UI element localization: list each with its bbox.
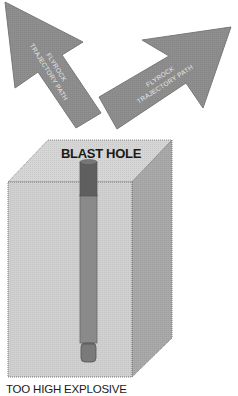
caption-text: TOO HIGH EXPLOSIVE xyxy=(6,383,127,395)
blast-hole xyxy=(80,160,97,363)
primer xyxy=(81,343,96,362)
flyrock-arrow-right: FLYROCK TRAJECTORY PATH xyxy=(99,27,231,129)
blast-diagram: FLYROCK TRAJECTORY PATH FLYROCK TRAJECTO… xyxy=(0,0,238,396)
explosive-column xyxy=(80,195,97,343)
blast-hole-title: BLAST HOLE xyxy=(61,146,142,161)
flyrock-arrow-left: FLYROCK TRAJECTORY PATH xyxy=(5,2,101,128)
stemming xyxy=(80,162,97,196)
